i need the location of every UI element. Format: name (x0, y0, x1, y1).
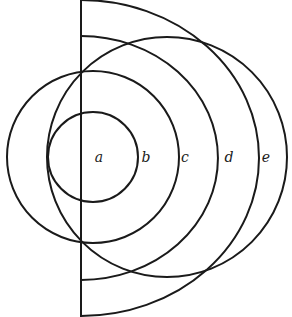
circle-e (47, 37, 287, 277)
circle-diagram: a b c d e (0, 0, 292, 317)
label-e: e (262, 149, 270, 165)
label-b: b (142, 149, 151, 165)
circle-a (48, 112, 138, 202)
label-a: a (95, 149, 103, 165)
label-d: d (225, 149, 234, 165)
label-c: c (181, 149, 189, 165)
diagram-canvas: a b c d e (0, 0, 292, 317)
circle-b (7, 71, 179, 243)
region-labels: a b c d e (95, 149, 270, 165)
